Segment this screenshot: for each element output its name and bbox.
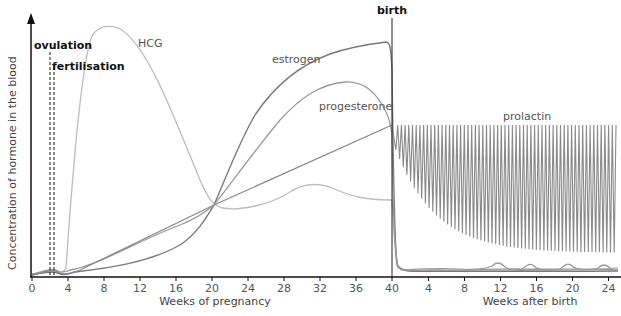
x-axis-label-after-birth: Weeks after birth (483, 295, 578, 308)
x-tick-label: 8 (101, 282, 108, 295)
birth-label: birth (377, 4, 407, 17)
y-axis-arrow-icon (27, 13, 35, 24)
post-birth-bumps (400, 263, 618, 270)
x-tick-label: 36 (349, 282, 363, 295)
x-tick-label: 4 (65, 282, 72, 295)
prolactin-rise (32, 125, 392, 275)
prolactin-label: prolactin (503, 110, 551, 123)
estrogen-label: estrogen (272, 53, 321, 66)
x-ticks-pregnancy: 0481216202428323640 (29, 277, 400, 295)
x-ticks-after-birth: 4812162024 (425, 277, 616, 295)
x-tick-label: 20 (205, 282, 219, 295)
hcg-label: HCG (138, 37, 162, 50)
x-tick-label: 16 (169, 282, 183, 295)
x-tick-label: 20 (566, 282, 580, 295)
prolactin-oscillation (392, 125, 616, 253)
x-axis-label-pregnancy: Weeks of pregnancy (159, 295, 271, 308)
x-tick-label: 8 (461, 282, 468, 295)
progesterone-label: progesterone (319, 100, 393, 113)
ovulation-label: ovulation (34, 39, 92, 52)
x-tick-label: 32 (313, 282, 327, 295)
x-tick-label: 0 (29, 282, 36, 295)
x-tick-label: 12 (133, 282, 147, 295)
x-tick-label: 16 (530, 282, 544, 295)
x-tick-label: 24 (241, 282, 255, 295)
x-tick-label: 28 (277, 282, 291, 295)
hormone-chart: Concentration of hormone in the blood 04… (0, 0, 621, 316)
x-tick-label: 40 (385, 282, 399, 295)
x-tick-label: 12 (494, 282, 508, 295)
x-tick-label: 4 (425, 282, 432, 295)
x-tick-label: 24 (602, 282, 616, 295)
fertilisation-label: fertilisation (52, 60, 125, 73)
y-axis-label: Concentration of hormone in the blood (6, 56, 19, 270)
